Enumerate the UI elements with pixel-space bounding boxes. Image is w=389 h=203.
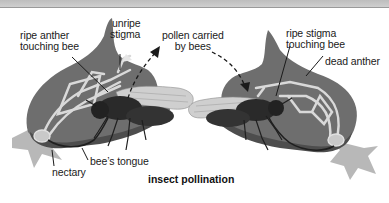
arrow-head-up — [150, 46, 160, 58]
label-unripe-stigma: unripe stigma — [110, 18, 141, 40]
leader-bees-tongue — [82, 148, 88, 160]
label-line: by bees — [162, 41, 224, 52]
label-nectary: nectary — [52, 167, 86, 178]
label-line: stigma — [110, 29, 141, 40]
label-line: touching bee — [20, 41, 79, 52]
label-dead-anther: dead anther — [325, 56, 380, 67]
label-ripe-anther: ripe anther touching bee — [20, 30, 79, 52]
label-pollen-carried: pollen carried by bees — [162, 30, 224, 52]
label-line: touching bee — [286, 39, 345, 50]
label-bees-tongue: bee’s tongue — [90, 156, 149, 167]
diagram-caption: insect pollination — [148, 173, 234, 185]
label-ripe-stigma: ripe stigma touching bee — [286, 28, 345, 50]
